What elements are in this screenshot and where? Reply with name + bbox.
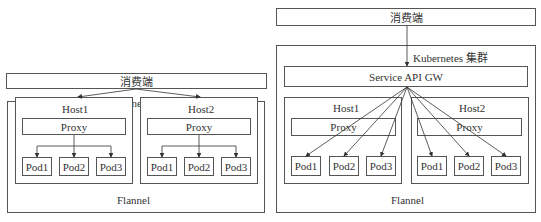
proxy-label: Proxy <box>186 121 212 133</box>
left-host2-pod3: Pod3 <box>221 157 251 176</box>
pod-label: Pod1 <box>151 161 174 173</box>
pod-label: Pod3 <box>225 161 248 173</box>
pod-label: Pod2 <box>333 160 356 172</box>
left-consumer-box: 消费端 <box>6 73 267 89</box>
left-host1-pod2: Pod2 <box>59 157 89 176</box>
proxy-label: Proxy <box>456 121 482 133</box>
right-host1-pod1: Pod1 <box>291 156 321 176</box>
pod-label: Pod2 <box>63 161 86 173</box>
left-consumer-label: 消费端 <box>120 73 153 89</box>
pod-label: Pod2 <box>458 160 481 172</box>
gateway-label: Service API GW <box>369 71 443 83</box>
right-consumer-box: 消费端 <box>276 8 536 26</box>
right-consumer-label: 消费端 <box>390 9 423 25</box>
left-host2-label: Host2 <box>188 103 214 115</box>
right-cluster-label: Kubernetes 集群 <box>413 49 488 65</box>
right-host1-proxy: Proxy <box>291 118 396 136</box>
pod-label: Pod2 <box>188 161 211 173</box>
pod-label: Pod1 <box>421 160 444 172</box>
pod-label: Pod1 <box>26 161 49 173</box>
left-host1-label: Host1 <box>62 103 88 115</box>
left-host1-pod1: Pod1 <box>22 157 52 176</box>
right-host1-label: Host1 <box>333 102 359 114</box>
left-host2-pod1: Pod1 <box>147 157 177 176</box>
right-network-label: Flannel <box>391 194 424 206</box>
pod-label: Pod3 <box>370 160 393 172</box>
left-host1-proxy: Proxy <box>22 118 126 135</box>
pod-label: Pod3 <box>100 161 123 173</box>
right-gateway-box: Service API GW <box>284 66 528 87</box>
right-host1-pod2: Pod2 <box>329 156 359 176</box>
left-host2-pod2: Pod2 <box>184 157 214 176</box>
right-host2-proxy: Proxy <box>417 118 522 136</box>
right-host2-label: Host2 <box>459 102 485 114</box>
left-host1-pod3: Pod3 <box>96 157 126 176</box>
pod-label: Pod3 <box>495 160 518 172</box>
pod-label: Pod1 <box>295 160 318 172</box>
right-host1-pod3: Pod3 <box>366 156 396 176</box>
right-host2-pod3: Pod3 <box>491 156 521 176</box>
proxy-label: Proxy <box>61 121 87 133</box>
left-network-label: Flannel <box>117 194 150 206</box>
left-host2-proxy: Proxy <box>147 118 251 135</box>
proxy-label: Proxy <box>330 121 356 133</box>
right-host2-pod1: Pod1 <box>417 156 447 176</box>
right-host2-pod2: Pod2 <box>454 156 484 176</box>
